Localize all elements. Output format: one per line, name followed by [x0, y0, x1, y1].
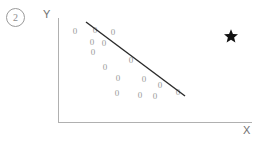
trend-line-layer: [0, 0, 268, 151]
star-marker: [224, 29, 239, 44]
scatter-plot-figure: 2 Y X 000000000000000: [0, 0, 268, 151]
regression-trend-line: [86, 22, 185, 96]
